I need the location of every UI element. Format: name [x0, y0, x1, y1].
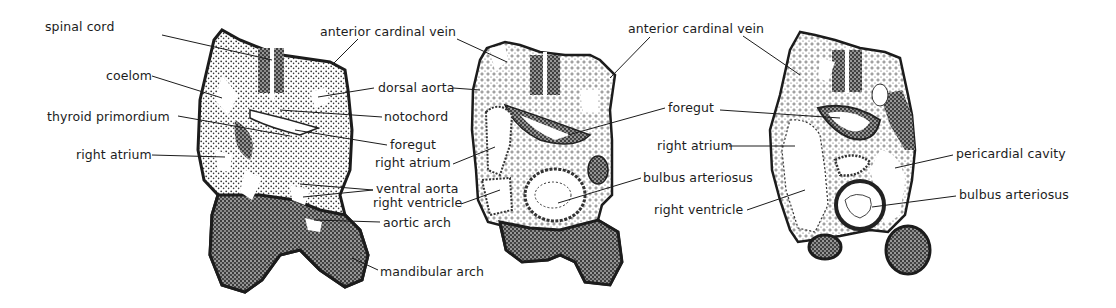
label-anterior-cardinal-vein-1: anterior cardinal vein — [320, 25, 456, 39]
label-mandibular-arch: mandibular arch — [380, 265, 484, 279]
leader-pericardial-cavity — [895, 155, 953, 168]
label-right-atrium-3: right atrium — [657, 139, 733, 153]
leader-lines — [0, 0, 1116, 308]
leader-dorsal-aorta — [318, 88, 374, 97]
label-aortic-arch: aortic arch — [383, 216, 451, 230]
leader-right-ventricle-3 — [747, 190, 805, 210]
leader-ant-card-vein-2 — [457, 39, 507, 62]
label-spinal-cord: spinal cord — [45, 20, 114, 34]
leader-anterior-cardinal-vein-1 — [332, 39, 358, 65]
leader-aortic-arch — [314, 220, 380, 222]
leader-dorsal-aorta-2 — [453, 88, 480, 90]
leader-foregut-1 — [295, 130, 387, 145]
label-coelom: coelom — [106, 69, 152, 83]
leader-mandibular-arch — [352, 258, 378, 270]
leader-right-ventricle-2 — [461, 190, 500, 204]
leader-ventral-aorta-b — [303, 190, 373, 197]
leader-anterior-cardinal-vein-2 — [610, 37, 650, 78]
label-right-atrium-1: right atrium — [76, 148, 152, 162]
leader-spinal-cord — [162, 35, 272, 60]
leader-anterior-cardinal-vein-3 — [743, 36, 800, 75]
leader-notochord — [280, 110, 382, 117]
label-ventral-aorta: ventral aorta — [376, 182, 458, 196]
leader-coelom — [152, 76, 222, 98]
label-anterior-cardinal-vein-2: anterior cardinal vein — [628, 22, 764, 36]
label-right-atrium-2: right atrium — [375, 156, 451, 170]
label-notochord: notochord — [384, 110, 448, 124]
leader-thyroid-primordium — [178, 116, 290, 136]
leader-right-atrium-1 — [152, 155, 225, 157]
leader-foregut-3 — [720, 110, 840, 118]
leader-ventral-aorta-a — [300, 184, 373, 190]
label-foregut-1: foregut — [390, 138, 436, 152]
label-dorsal-aorta: dorsal aorta — [378, 81, 455, 95]
leader-right-atrium-2 — [453, 147, 495, 164]
leader-bulbus-arteriosus-3 — [872, 196, 956, 207]
leader-foregut-2 — [568, 108, 665, 135]
label-thyroid-primordium: thyroid primordium — [47, 110, 170, 124]
label-right-ventricle-2: right ventricle — [373, 196, 462, 210]
embryo-sections-figure: spinal cord coelom thyroid primordium ri… — [0, 0, 1116, 308]
label-foregut-2: foregut — [668, 101, 714, 115]
label-right-ventricle-3: right ventricle — [654, 203, 743, 217]
label-bulbus-arteriosus-3: bulbus arteriosus — [959, 188, 1069, 202]
leader-bulbus-arteriosus-2 — [558, 178, 641, 203]
label-bulbus-arteriosus-2: bulbus arteriosus — [643, 171, 753, 185]
label-pericardial-cavity: pericardial cavity — [956, 147, 1066, 161]
